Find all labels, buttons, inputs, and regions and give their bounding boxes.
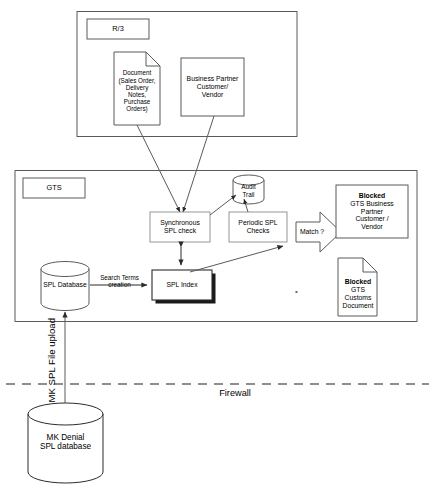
diagram-vector-layer — [0, 0, 435, 492]
diagram-canvas: R/3 GTS Document (Sales Order, Delivery … — [0, 0, 435, 492]
edge-business-partner-to-sync-check — [183, 116, 214, 212]
stray-dot-artifact — [296, 291, 298, 293]
node-spl-database-shape — [41, 262, 89, 311]
node-mk-denial-database-shape — [28, 403, 103, 483]
node-periodic-spl-checks-shape — [229, 212, 287, 242]
node-synchronous-spl-check-shape — [150, 212, 210, 242]
edge-spl-index-to-periodic-checks — [190, 246, 283, 272]
node-match-arrow-shape — [296, 212, 341, 252]
node-blocked-partner-shape — [336, 185, 408, 238]
node-spl-index-shape — [152, 270, 216, 304]
node-document-shape — [114, 52, 160, 125]
edge-label-mk-spl-file-upload: MK SPL File upload — [46, 318, 57, 402]
node-blocked-customs-document-shape — [338, 258, 377, 316]
edge-periodic-checks-to-audit-trail — [244, 199, 248, 212]
node-audit-trail-shape — [233, 175, 264, 204]
node-business-partner-shape — [181, 58, 244, 116]
edge-document-to-sync-check — [137, 125, 180, 212]
